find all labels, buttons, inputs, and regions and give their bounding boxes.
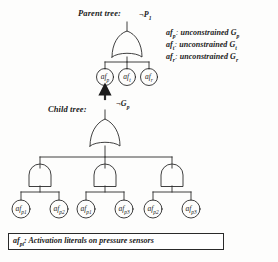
legend-3-term: afr: [166, 52, 175, 61]
legend-1-gsym: Gp: [231, 28, 240, 37]
child-tree-section-label: Child tree:: [48, 105, 87, 114]
parent-leaf-label-1: afp: [96, 73, 114, 83]
child-leaf-6-sub: p3: [191, 209, 196, 215]
child-root-label-text: ¬G: [116, 99, 127, 108]
child-leaf-label-2: afp2: [50, 205, 68, 215]
child-root-label: ¬Gp: [116, 100, 129, 110]
child-leaf-2-sub: p2: [59, 209, 64, 215]
figure-canvas: Parent tree: ¬P1 afp aft afr afp: uncons…: [0, 0, 278, 262]
legend-2-gsym: Gt: [229, 40, 236, 49]
legend-1-term: afp: [166, 28, 176, 37]
legend-line-3: afr: unconstrained Gr: [166, 53, 238, 63]
caption-body: : Activation literals on pressure sensor…: [24, 236, 154, 245]
legend-1-desc: unconstrained: [180, 28, 228, 37]
caption-term: af: [13, 236, 20, 245]
legend-line-2: aft: unconstrained Gt: [166, 41, 237, 51]
parent-leaf-2-sub: t: [129, 77, 131, 83]
parent-root-label-text: ¬P: [139, 10, 149, 19]
child-root-label-sub: p: [127, 104, 130, 110]
child-leaf-label-4: afp3: [115, 205, 133, 215]
parent-tree-section-label: Parent tree:: [78, 9, 121, 18]
child-leaf-1-sub: p1: [21, 209, 26, 215]
parent-root-label: ¬P1: [139, 11, 152, 21]
parent-or-gate-body: [112, 31, 142, 57]
parent-leaf-label-2: aft: [118, 73, 136, 83]
parent-leaf-3-sub: r: [151, 77, 153, 83]
child-leaf-label-3: afp1: [77, 205, 95, 215]
child-leaf-label-5: afp2: [144, 205, 162, 215]
child-leaf-4-sub: p3: [124, 209, 129, 215]
child-leaf-label-1: afp1: [12, 205, 30, 215]
legend-line-1: afp: unconstrained Gp: [166, 29, 239, 39]
parent-leaf-1-sub: p: [107, 77, 110, 83]
parent-root-label-sub: 1: [149, 15, 152, 21]
child-leaf-5-sub: p2: [153, 209, 158, 215]
caption-box: afpi: Activation literals on pressure se…: [8, 233, 224, 250]
legend-3-desc: unconstrained: [180, 52, 228, 61]
child-leaf-label-6: afp3: [182, 205, 200, 215]
legend-3-gsym: Gr: [230, 52, 238, 61]
parent-leaf-label-3: afr: [140, 73, 158, 83]
child-or-gate-body: [90, 119, 120, 146]
caption-text: afpi: Activation literals on pressure se…: [13, 236, 154, 247]
legend-2-desc: unconstrained: [179, 40, 227, 49]
child-leaf-3-sub: p1: [86, 209, 91, 215]
